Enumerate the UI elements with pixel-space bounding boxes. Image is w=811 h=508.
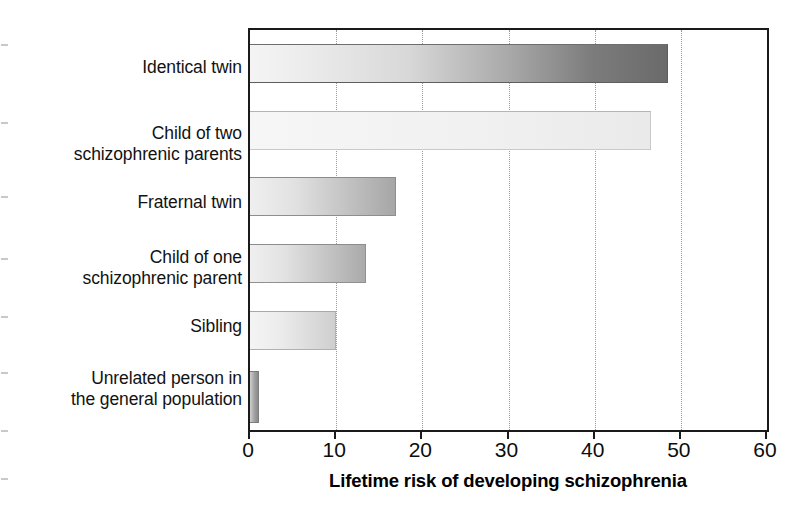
scan-artifact-mark (1, 478, 8, 480)
x-axis-tick-label-40: 40 (563, 437, 623, 463)
plot-area (248, 28, 769, 432)
x-axis-tick-label-30: 30 (477, 437, 537, 463)
bar-fraternal-twin (250, 177, 396, 216)
bar-child-of-two-schizophrenic-parents (250, 111, 651, 150)
x-axis-tick-label-0: 0 (218, 437, 278, 463)
x-axis-tick-label-10: 10 (304, 437, 364, 463)
bar-row (250, 44, 767, 83)
x-axis-tick-label-20: 20 (390, 437, 450, 463)
bar-identical-twin (250, 44, 668, 83)
bar-row (250, 311, 767, 350)
scan-artifact-mark (1, 430, 8, 432)
bar-row (250, 244, 767, 283)
bar-unrelated-person-in-the-general-population (250, 371, 259, 423)
y-axis-label-sibling: Sibling (6, 316, 242, 337)
x-axis-tick-label-50: 50 (649, 437, 709, 463)
plot-inner (250, 30, 767, 430)
y-axis-label-line: Fraternal twin (6, 192, 242, 213)
bar-child-of-one-schizophrenic-parent (250, 244, 366, 283)
y-axis-label-child-of-one-schizophrenic-parent: Child of one schizophrenic parent (6, 247, 242, 289)
x-axis-tick-labels: 0102030405060 (248, 437, 769, 467)
bar-sibling (250, 311, 336, 350)
y-axis-label-line: Sibling (6, 316, 242, 337)
y-axis-label-line: the general population (6, 389, 242, 410)
bar-row (250, 111, 767, 150)
bar-chart-figure: Identical twin Child of two schizophreni… (0, 0, 811, 508)
y-axis-label-line: Child of one (6, 247, 242, 268)
y-axis-label-fraternal-twin: Fraternal twin (6, 192, 242, 213)
y-axis-label-line: schizophrenic parents (6, 144, 242, 165)
y-axis-label-child-of-two-schizophrenic-parents: Child of two schizophrenic parents (6, 123, 242, 165)
bar-row (250, 371, 767, 423)
y-axis-label-identical-twin: Identical twin (6, 57, 242, 78)
y-axis-label-line: Identical twin (6, 57, 242, 78)
y-axis-category-labels: Identical twin Child of two schizophreni… (4, 28, 242, 428)
bar-row (250, 177, 767, 216)
y-axis-label-unrelated-person-general-population: Unrelated person in the general populati… (6, 368, 242, 410)
x-axis-tick-label-60: 60 (735, 437, 795, 463)
x-axis-title: Lifetime risk of developing schizophreni… (248, 470, 768, 492)
y-axis-label-line: Unrelated person in (6, 368, 242, 389)
y-axis-label-line: schizophrenic parent (6, 268, 242, 289)
y-axis-label-line: Child of two (6, 123, 242, 144)
